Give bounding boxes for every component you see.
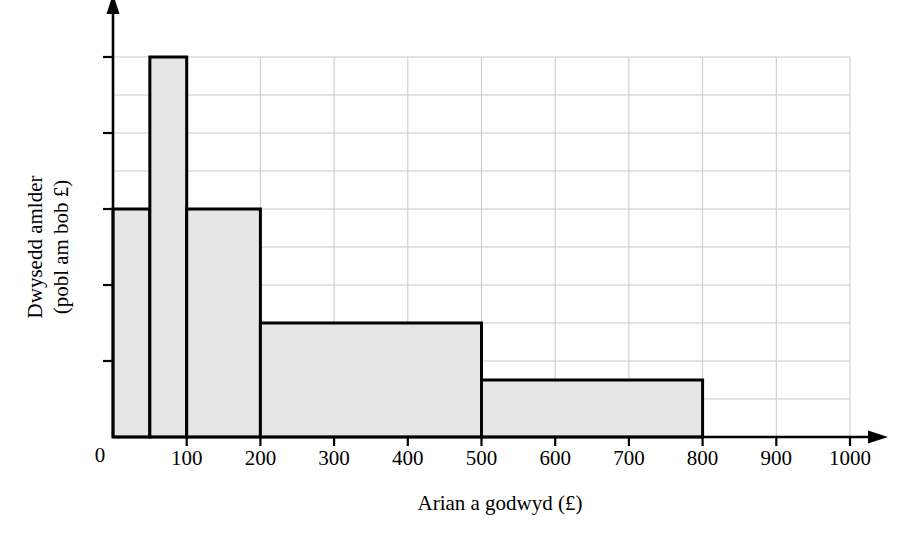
x-tick-label: 200 [245,446,277,470]
chart-canvas: 1002003004005006007008009001000 0 Arian … [0,0,900,535]
histogram-bar [150,57,187,437]
y-axis-title-line2: (pobl am bob £) [49,180,73,315]
x-tick-label: 600 [539,446,571,470]
histogram-bar [187,209,261,437]
x-axis-title: Arian a godwyd (£) [417,491,582,515]
y-axis-arrow-icon [107,0,120,14]
histogram-bar [482,380,703,437]
origin-label: 0 [95,443,106,467]
y-axis-tickmarks [103,57,113,361]
x-axis-arrow-icon [868,431,888,444]
x-tick-label: 800 [687,446,719,470]
x-tick-label: 700 [613,446,645,470]
x-tick-label: 900 [761,446,793,470]
histogram-bar [113,209,150,437]
x-tick-label: 100 [171,446,203,470]
x-tick-label: 300 [318,446,350,470]
x-tick-label: 500 [466,446,498,470]
x-tick-label: 1000 [829,446,871,470]
y-axis-title-line1: Dwysedd amlder [23,176,47,319]
x-axis-tick-labels: 1002003004005006007008009001000 [171,446,871,470]
x-tick-label: 400 [392,446,424,470]
histogram-bar [260,323,481,437]
y-axis-title: Dwysedd amlder (pobl am bob £) [23,176,73,319]
histogram-chart: 1002003004005006007008009001000 0 Arian … [0,0,900,535]
